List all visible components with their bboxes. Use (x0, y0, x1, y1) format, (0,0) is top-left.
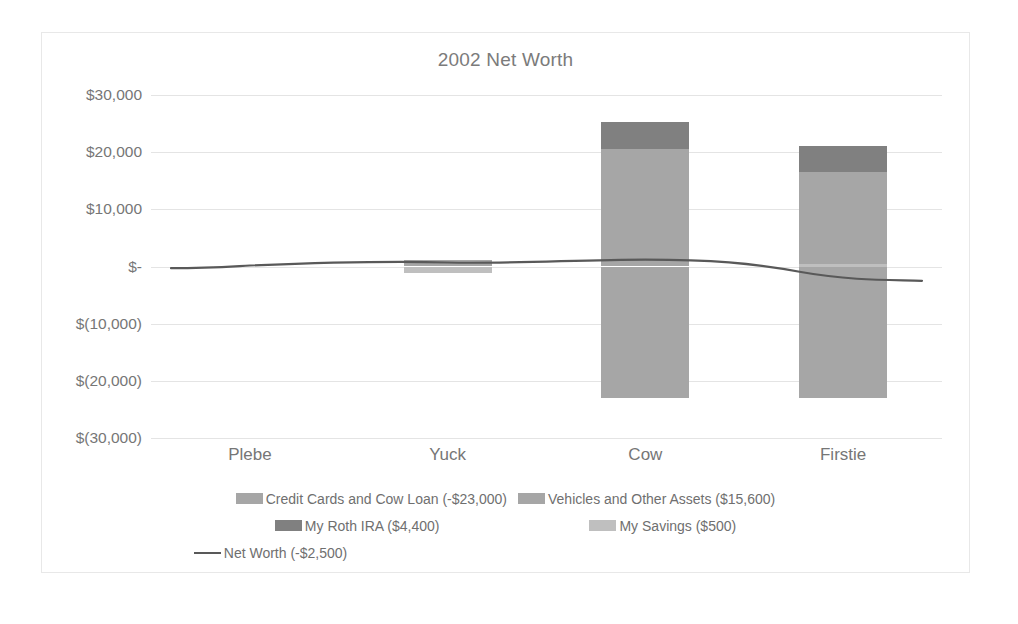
plot-area (151, 95, 942, 438)
x-axis-tick-label-firstie: Firstie (744, 445, 942, 475)
bar-group-cow (547, 95, 745, 438)
y-axis-tick-label: $- (50, 258, 142, 276)
gridline (151, 438, 942, 439)
y-axis: $30,000 $20,000 $10,000 $- $(10,000) $(2… (42, 95, 142, 438)
x-axis-tick-label-yuck: Yuck (349, 445, 547, 475)
legend-item-vehicles-and-other-assets[interactable]: Vehicles and Other Assets ($15,600) (518, 491, 775, 507)
legend-swatch-icon (589, 520, 616, 531)
legend-label: Net Worth (-$2,500) (224, 545, 347, 561)
chart-container: 2002 Net Worth $30,000 $20,000 $10,000 $… (41, 32, 970, 573)
legend-row: Net Worth (-$2,500) (42, 539, 969, 566)
bar-segment-assets (404, 260, 492, 267)
bar-segment-liabilities (601, 267, 689, 399)
legend-row: My Roth IRA ($4,400) My Savings ($500) (42, 512, 969, 539)
bar-group-plebe (151, 95, 349, 438)
bar-segment-liabilities (799, 267, 887, 399)
legend-swatch-icon (236, 493, 263, 504)
legend-swatch-icon (518, 493, 545, 504)
y-axis-tick-label: $(30,000) (50, 429, 142, 447)
chart-legend: Credit Cards and Cow Loan (-$23,000) Veh… (42, 485, 969, 566)
y-axis-tick-label: $(20,000) (50, 372, 142, 390)
y-axis-tick-label: $(10,000) (50, 315, 142, 333)
bar-segment-assets (799, 172, 887, 264)
legend-label: My Savings ($500) (619, 518, 736, 534)
legend-item-my-roth-ira[interactable]: My Roth IRA ($4,400) (275, 518, 440, 534)
y-axis-tick-label: $10,000 (50, 200, 142, 218)
legend-label: Credit Cards and Cow Loan (-$23,000) (266, 491, 507, 507)
legend-item-net-worth[interactable]: Net Worth (-$2,500) (194, 545, 347, 561)
bar-segment-roth-ira (601, 122, 689, 149)
bar-group-yuck (349, 95, 547, 438)
bar-segment-assets (601, 149, 689, 266)
legend-line-icon (194, 547, 221, 558)
bar-group-firstie (744, 95, 942, 438)
legend-swatch-icon (275, 520, 302, 531)
legend-item-my-savings[interactable]: My Savings ($500) (589, 518, 736, 534)
y-axis-tick-label: $30,000 (50, 86, 142, 104)
legend-label: Vehicles and Other Assets ($15,600) (548, 491, 775, 507)
y-axis-tick-label: $20,000 (50, 143, 142, 161)
legend-label: My Roth IRA ($4,400) (305, 518, 440, 534)
chart-title: 2002 Net Worth (42, 49, 969, 71)
x-axis-tick-label-plebe: Plebe (151, 445, 349, 475)
legend-row: Credit Cards and Cow Loan (-$23,000) Veh… (42, 485, 969, 512)
x-axis: Plebe Yuck Cow Firstie (151, 445, 942, 475)
legend-item-credit-cards-and-cow-loan[interactable]: Credit Cards and Cow Loan (-$23,000) (236, 491, 507, 507)
x-axis-tick-label-cow: Cow (547, 445, 745, 475)
bar-segment-savings (404, 267, 492, 274)
bar-segment-roth-ira (799, 146, 887, 171)
